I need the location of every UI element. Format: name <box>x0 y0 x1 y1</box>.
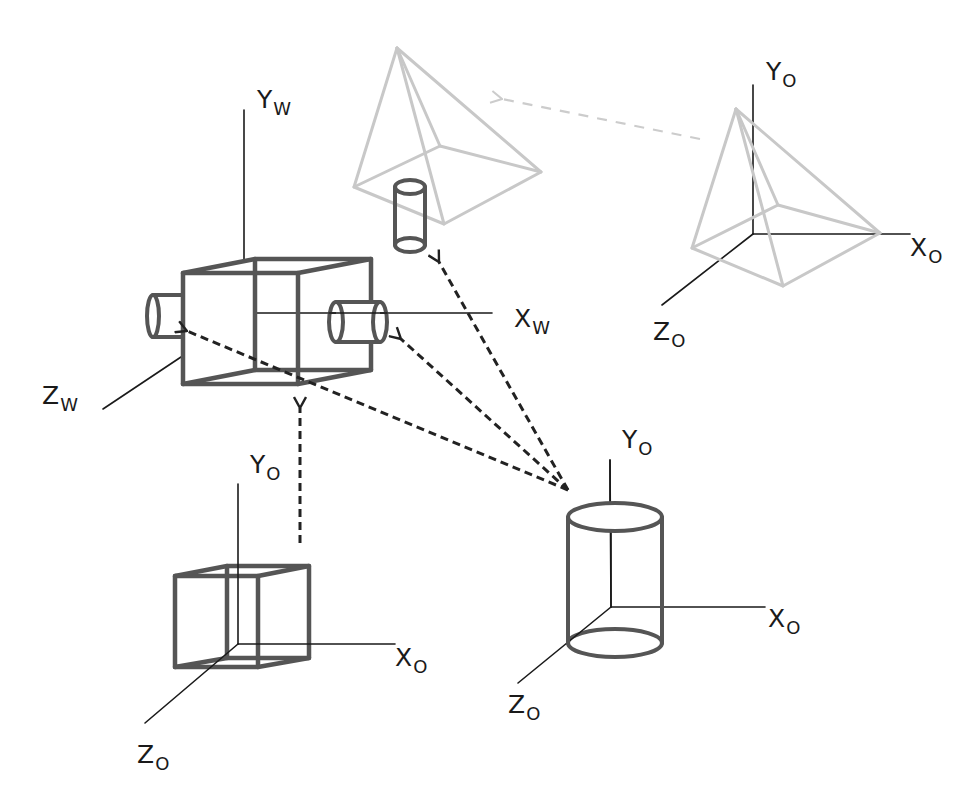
cube-object-frame <box>145 484 395 723</box>
pyramid-edge <box>692 109 736 248</box>
pyramid-object-frame-label-y: YO <box>765 57 796 91</box>
coordinate-frames-diagram: YWXWZWYOXOZOYOXOZOYOXOZO <box>0 0 975 805</box>
pyramid-base <box>692 205 880 286</box>
label-xw: XW <box>514 304 550 338</box>
cylinder-object-frame-label-y: YO <box>621 425 652 459</box>
cylinder-object-frame-label-z: ZO <box>508 690 540 724</box>
cylinder-bottom <box>395 238 425 252</box>
faded-layer <box>354 48 541 224</box>
cylinder-top <box>568 503 662 531</box>
cylinder-top <box>395 180 425 194</box>
z-axis <box>145 644 238 723</box>
cube-object-frame-axes <box>145 484 395 723</box>
label-zw: ZW <box>42 381 78 415</box>
pyramid-base <box>354 146 541 224</box>
axes-layer <box>103 85 910 409</box>
arrow-to-left-lens <box>187 331 568 490</box>
z-axis <box>518 607 611 683</box>
pyramid-object-frame-label-z: ZO <box>653 317 685 351</box>
label-yw: YW <box>256 85 291 119</box>
world-z-axis <box>103 357 181 409</box>
cylinder-object-frame-label-x: XO <box>768 604 800 638</box>
arrow-to-small-cylinder <box>439 262 568 490</box>
pyramid-object-frame-z-axis <box>662 234 753 305</box>
cube-object-frame-label-x: XO <box>395 643 427 677</box>
faded-pyramid-icon <box>354 48 541 224</box>
cube-front-face <box>183 273 298 384</box>
pyramid-icon <box>692 109 880 286</box>
pyramid-edge <box>354 48 397 187</box>
pyramid-object-frame-label-x: XO <box>910 233 942 267</box>
cube-object-frame-label-y: YO <box>249 450 280 484</box>
cube-front-face <box>175 576 258 667</box>
left-lens-cylinder <box>147 295 183 337</box>
arrow-to-right-lens <box>401 339 568 490</box>
cube-icon <box>175 566 309 667</box>
cylinder-bottom <box>568 629 662 657</box>
arrow-pyramid-to-world <box>502 99 700 139</box>
right-lens-cylinder <box>329 302 387 342</box>
cylinder-object-frame-axes <box>518 460 765 683</box>
cube-object-frame-label-z: ZO <box>137 740 169 774</box>
small-cylinder-icon <box>395 180 425 252</box>
lens-face <box>147 295 159 337</box>
cylinder-object-frame <box>518 460 765 683</box>
pyramid-object-frame <box>692 109 880 286</box>
